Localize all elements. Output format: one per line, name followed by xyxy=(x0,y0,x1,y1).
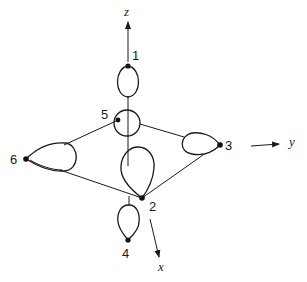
edge-6-5 xyxy=(64,121,116,145)
ligand-2: 2 xyxy=(121,147,156,214)
ligand-4: 4 xyxy=(118,196,139,261)
orbital-lobe-4 xyxy=(118,205,139,240)
y-axis: y xyxy=(251,134,295,149)
ligand-2-dot xyxy=(139,195,145,201)
ligand-2-label: 2 xyxy=(149,199,156,214)
z-axis-label: z xyxy=(123,4,129,19)
orbital-lobe-5 xyxy=(114,110,140,136)
ligand-6-dot xyxy=(23,156,29,162)
ligand-5: 5 xyxy=(101,107,140,136)
octahedral-orbital-diagram: z 1 5 6 3 2 xyxy=(0,0,307,282)
x-axis: x xyxy=(150,219,164,274)
ligand-3-dot xyxy=(217,142,223,148)
ligand-3-label: 3 xyxy=(225,138,232,153)
ligand-1-label: 1 xyxy=(132,48,139,63)
ligand-3: 3 xyxy=(182,133,232,155)
x-axis-arrow-icon xyxy=(150,219,159,257)
ligand-4-label: 4 xyxy=(122,246,129,261)
edge-6-2 xyxy=(60,170,142,198)
ligand-6: 6 xyxy=(10,143,76,171)
orbital-lobe-6 xyxy=(26,143,76,171)
edge-5-3 xyxy=(140,124,184,137)
octahedron-edges xyxy=(60,121,203,198)
x-axis-label: x xyxy=(157,259,164,274)
ligand-1-dot xyxy=(125,63,130,68)
orbital-lobe-1 xyxy=(118,66,139,97)
orbital-lobe-3 xyxy=(182,133,220,155)
z-axis: z xyxy=(123,4,129,62)
ligand-6-label: 6 xyxy=(10,152,17,167)
ligand-4-dot xyxy=(125,237,130,242)
ligand-5-dot xyxy=(116,118,121,123)
orbital-lobe-2 xyxy=(121,147,154,198)
y-axis-arrow-icon xyxy=(251,144,279,146)
ligand-5-label: 5 xyxy=(101,107,108,122)
y-axis-label: y xyxy=(287,134,295,149)
edge-2-3 xyxy=(142,155,203,198)
